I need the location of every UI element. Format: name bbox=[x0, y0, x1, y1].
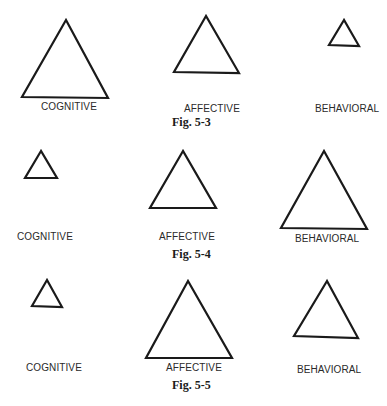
behavioral-label: BEHAVIORAL bbox=[297, 364, 362, 375]
figure-5-5: COGNITIVE AFFECTIVE BEHAVIORAL Fig. 5-5 bbox=[26, 280, 362, 392]
behavioral-triangle bbox=[329, 20, 359, 46]
affective-label: AFFECTIVE bbox=[159, 231, 215, 242]
figure-caption: Fig. 5-4 bbox=[172, 247, 211, 261]
cognitive-triangle bbox=[32, 280, 62, 307]
affective-triangle bbox=[150, 151, 216, 208]
affective-triangle bbox=[174, 16, 239, 73]
figure-5-4: COGNITIVE AFFECTIVE BEHAVIORAL Fig. 5-4 bbox=[17, 151, 367, 261]
behavioral-triangle bbox=[294, 281, 358, 338]
cognitive-triangle bbox=[22, 20, 108, 98]
figure-5-3: COGNITIVE AFFECTIVE BEHAVIORAL Fig. 5-3 bbox=[22, 16, 380, 129]
cognitive-label: COGNITIVE bbox=[26, 362, 82, 373]
behavioral-triangle bbox=[281, 151, 367, 229]
cognitive-label: COGNITIVE bbox=[17, 231, 73, 242]
cognitive-label: COGNITIVE bbox=[41, 101, 97, 112]
attitude-component-diagrams: COGNITIVE AFFECTIVE BEHAVIORAL Fig. 5-3 … bbox=[0, 0, 387, 406]
affective-label: AFFECTIVE bbox=[184, 103, 240, 114]
behavioral-label: BEHAVIORAL bbox=[315, 103, 380, 114]
figure-caption: Fig. 5-5 bbox=[172, 378, 211, 392]
figure-caption: Fig. 5-3 bbox=[172, 115, 211, 129]
affective-label: AFFECTIVE bbox=[166, 362, 222, 373]
affective-triangle bbox=[146, 281, 232, 358]
behavioral-label: BEHAVIORAL bbox=[295, 233, 360, 244]
cognitive-triangle bbox=[25, 151, 57, 178]
